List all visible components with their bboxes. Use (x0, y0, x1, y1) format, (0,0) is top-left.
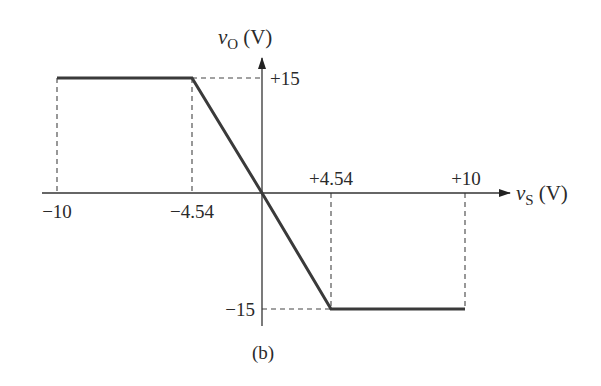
tick-y-pos15: +15 (270, 68, 300, 89)
tick-x-pos10: +10 (451, 168, 481, 189)
figure-caption: (b) (252, 342, 274, 364)
tick-y-neg15: −15 (225, 299, 255, 320)
transfer-characteristic-figure: vO(V) vS(V) +15 −15 −10 −4.54 +4.54 +10 … (0, 0, 601, 386)
y-axis-label: vO(V) (218, 25, 272, 52)
plot-canvas: vO(V) vS(V) +15 −15 −10 −4.54 +4.54 +10 … (0, 0, 601, 386)
tick-x-pos454: +4.54 (309, 168, 353, 189)
x-axis-label: vS(V) (516, 181, 568, 208)
tick-x-neg454: −4.54 (170, 201, 214, 222)
tick-x-neg10: −10 (42, 201, 72, 222)
